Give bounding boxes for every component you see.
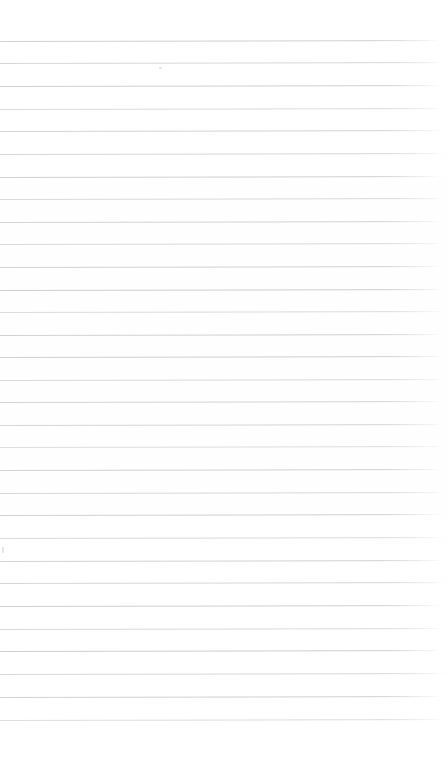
rule-line (0, 469, 442, 471)
rule-line (0, 153, 444, 155)
rule-line (0, 108, 445, 110)
rule-line (0, 334, 442, 336)
rule-line (0, 492, 445, 494)
rule-line (0, 582, 446, 584)
rule-line (0, 40, 440, 42)
rule-line (0, 266, 441, 268)
rule-line (0, 130, 443, 132)
rule-line (0, 401, 441, 403)
rule-line (0, 62, 446, 64)
rule-line (0, 446, 446, 448)
rule-line (0, 424, 444, 426)
scanned-page (0, 0, 448, 781)
rule-line (0, 628, 445, 630)
rule-line (0, 696, 441, 698)
rule-line (0, 198, 446, 200)
rule-line (0, 605, 440, 607)
rule-line (0, 289, 444, 291)
rule-line (0, 379, 445, 381)
rule-line (0, 85, 441, 87)
rule-line (0, 560, 443, 562)
ruled-lines-group (0, 0, 448, 781)
rule-line (0, 719, 444, 721)
rule-line (0, 673, 446, 675)
rule-line (0, 650, 442, 652)
rule-line (0, 221, 442, 223)
rule-line (0, 356, 444, 358)
rule-line (0, 311, 446, 313)
rule-line (0, 537, 444, 539)
rule-line (0, 514, 441, 516)
rule-line (0, 176, 440, 178)
rule-line (0, 243, 445, 245)
